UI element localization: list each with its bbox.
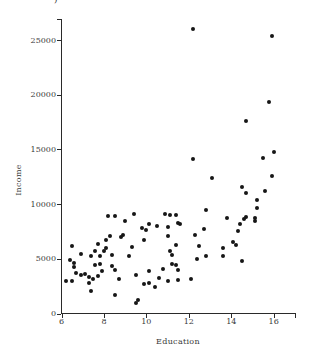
clipped-caption-fragment: ) bbox=[54, 0, 58, 4]
data-point bbox=[236, 229, 240, 233]
data-point bbox=[147, 269, 151, 273]
data-point bbox=[102, 249, 106, 253]
data-point bbox=[140, 226, 144, 230]
data-point bbox=[153, 285, 157, 289]
data-point bbox=[161, 267, 165, 271]
data-point bbox=[70, 244, 74, 248]
data-point bbox=[191, 27, 195, 31]
data-point bbox=[255, 206, 259, 210]
data-point bbox=[132, 212, 136, 216]
data-point bbox=[270, 34, 274, 38]
data-point bbox=[89, 254, 93, 258]
y-tick bbox=[57, 95, 61, 96]
data-point bbox=[64, 279, 68, 283]
data-point bbox=[174, 243, 178, 247]
data-point bbox=[234, 243, 238, 247]
data-point bbox=[221, 254, 225, 258]
data-point bbox=[168, 213, 172, 217]
data-point bbox=[202, 227, 206, 231]
data-point bbox=[166, 279, 170, 283]
data-point bbox=[240, 259, 244, 263]
data-point bbox=[106, 214, 110, 218]
data-point bbox=[263, 189, 267, 193]
data-point bbox=[166, 234, 170, 238]
data-point bbox=[144, 228, 148, 232]
x-tick-label: 12 bbox=[184, 318, 194, 326]
data-point bbox=[83, 272, 87, 276]
data-point bbox=[142, 238, 146, 242]
data-point bbox=[72, 265, 76, 269]
data-point bbox=[195, 257, 199, 261]
data-point bbox=[204, 208, 208, 212]
data-point bbox=[113, 293, 117, 297]
data-point bbox=[176, 278, 180, 282]
data-point bbox=[191, 157, 195, 161]
data-point bbox=[127, 254, 131, 258]
data-point bbox=[210, 176, 214, 180]
y-axis-label: Income bbox=[14, 164, 23, 196]
data-point bbox=[119, 235, 123, 239]
data-point bbox=[91, 277, 95, 281]
data-point bbox=[155, 224, 159, 228]
scatter-plot-figure: ) Education Income 681012141605000100001… bbox=[0, 0, 311, 362]
data-point bbox=[238, 222, 242, 226]
data-point bbox=[142, 282, 146, 286]
y-tick-label: 25000 bbox=[26, 37, 56, 45]
data-point bbox=[110, 253, 114, 257]
data-point bbox=[104, 238, 108, 242]
data-point bbox=[272, 150, 276, 154]
data-point bbox=[98, 254, 102, 258]
data-point bbox=[113, 268, 117, 272]
data-point bbox=[176, 268, 180, 272]
data-point bbox=[134, 273, 138, 277]
data-point bbox=[178, 222, 182, 226]
data-point bbox=[221, 246, 225, 250]
y-tick bbox=[57, 314, 61, 315]
data-point bbox=[89, 289, 93, 293]
data-point bbox=[170, 253, 174, 257]
data-point bbox=[70, 279, 74, 283]
data-point bbox=[117, 277, 121, 281]
data-point bbox=[123, 219, 127, 223]
data-point bbox=[96, 274, 100, 278]
x-axis-line bbox=[61, 313, 296, 314]
data-point bbox=[189, 277, 193, 281]
data-point bbox=[204, 254, 208, 258]
data-point bbox=[225, 216, 229, 220]
data-point bbox=[96, 242, 100, 246]
x-tick-label: 6 bbox=[59, 318, 64, 326]
data-point bbox=[147, 222, 151, 226]
data-point bbox=[270, 174, 274, 178]
y-tick-label: 15000 bbox=[26, 146, 56, 154]
data-point bbox=[79, 252, 83, 256]
y-tick bbox=[57, 40, 61, 41]
data-point bbox=[255, 198, 259, 202]
data-point bbox=[93, 263, 97, 267]
y-tick-label: 20000 bbox=[26, 91, 56, 99]
data-point bbox=[147, 281, 151, 285]
data-point bbox=[197, 244, 201, 248]
data-point bbox=[244, 191, 248, 195]
data-point bbox=[113, 214, 117, 218]
x-tick-label: 14 bbox=[226, 318, 236, 326]
y-tick-label: 5000 bbox=[26, 255, 56, 263]
data-point bbox=[244, 119, 248, 123]
y-tick bbox=[57, 149, 61, 150]
data-point bbox=[157, 276, 161, 280]
y-axis-end-tick bbox=[57, 19, 61, 20]
data-point bbox=[93, 249, 97, 253]
x-tick-label: 10 bbox=[141, 318, 151, 326]
data-point bbox=[261, 156, 265, 160]
y-tick bbox=[57, 259, 61, 260]
data-point bbox=[100, 269, 104, 273]
data-point bbox=[134, 301, 138, 305]
data-point bbox=[242, 217, 246, 221]
data-point bbox=[130, 245, 134, 249]
x-axis-end-tick bbox=[295, 314, 296, 318]
y-tick-label: 10000 bbox=[26, 201, 56, 209]
data-point bbox=[174, 213, 178, 217]
data-point bbox=[98, 262, 102, 266]
x-axis-label: Education bbox=[156, 337, 200, 346]
y-tick-label: 0 bbox=[26, 310, 56, 318]
data-point bbox=[87, 281, 91, 285]
